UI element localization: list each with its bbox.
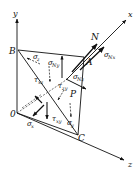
point-P-label: P xyxy=(69,89,77,99)
svg-text:xz: xz xyxy=(38,79,44,85)
svg-text:Nx: Nx xyxy=(107,54,115,60)
hidden-diagonal xyxy=(22,94,42,108)
sigma-y-arrow-dashed xyxy=(70,103,71,117)
tau-xy-label: τ xy xyxy=(52,115,62,125)
x-axis-label: x xyxy=(128,10,133,19)
svg-text:Nz: Nz xyxy=(76,76,84,82)
point-O-label: 0 xyxy=(10,109,16,119)
sigma-Nx-label: σ Nx xyxy=(104,51,115,60)
sigma-z-label: σ z xyxy=(33,53,40,62)
sigma-y-label: σ y xyxy=(67,119,74,129)
svg-text:xy: xy xyxy=(56,118,62,125)
sigma-x-label: σ x xyxy=(27,120,34,129)
tau-xz-arrow xyxy=(49,66,50,82)
tetrahedron-stress-diagram: y x z B A C 0 P N σ Nx σ Ny σ Nz σ z τ x… xyxy=(0,0,140,175)
point-B-label: B xyxy=(8,46,16,56)
point-C-label: C xyxy=(78,133,85,143)
svg-text:y: y xyxy=(70,122,74,129)
sigma-Ny-label: σ Ny xyxy=(48,59,59,69)
svg-text:zy: zy xyxy=(61,85,68,92)
normal-N-label: N xyxy=(90,32,100,42)
sigma-x-arrow xyxy=(33,105,44,116)
z-axis-label: z xyxy=(127,160,133,169)
y-axis-label: y xyxy=(12,9,18,18)
svg-text:Ny: Ny xyxy=(51,62,59,69)
tau-zy-arrow xyxy=(58,90,64,100)
point-A-label: A xyxy=(85,57,93,67)
tau-xz-label: τ xz xyxy=(34,76,44,85)
x-axis xyxy=(66,20,126,80)
svg-text:z: z xyxy=(36,56,40,62)
edge-BA xyxy=(18,50,84,57)
tau-zy-label: τ zy xyxy=(58,82,68,92)
svg-text:x: x xyxy=(31,123,34,129)
